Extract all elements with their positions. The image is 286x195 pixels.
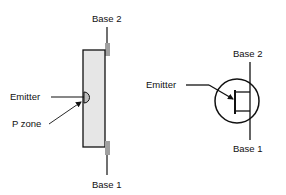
base1-contact-tab — [105, 141, 110, 155]
right-base1-label: Base 1 — [233, 143, 263, 154]
right-base2-label: Base 2 — [233, 48, 263, 59]
p-zone-pointer-arrow — [49, 102, 81, 124]
base2-contact-tab — [105, 43, 110, 56]
ujt-schematic-symbol: Base 2 Base 1 Emitter — [146, 48, 263, 154]
left-emitter-label: Emitter — [10, 91, 40, 102]
ujt-physical-structure: Base 2 Base 1 Emitter P zone — [10, 13, 122, 190]
ujt-diagram: Base 2 Base 1 Emitter P zone Base 2 Base… — [0, 0, 286, 195]
right-emitter-label: Emitter — [146, 79, 176, 90]
pzone-label: P zone — [12, 118, 41, 129]
symbol-envelope-circle — [215, 79, 259, 123]
emitter-arrow — [209, 85, 233, 99]
left-base2-label: Base 2 — [92, 13, 122, 24]
left-base1-label: Base 1 — [92, 179, 122, 190]
